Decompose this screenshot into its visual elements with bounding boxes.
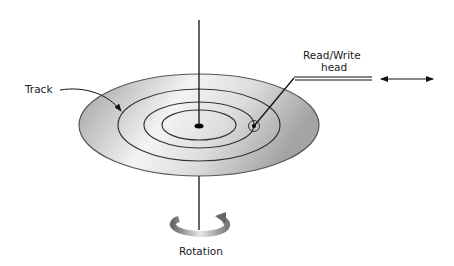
- rotation-label: Rotation: [179, 245, 223, 257]
- rotation-arrow-icon: [173, 212, 227, 234]
- head-label-line1: Read/Write: [303, 49, 361, 61]
- disk-diagram: Track Read/Write head Rotation: [0, 0, 454, 266]
- head-label-line2: head: [321, 61, 347, 73]
- track-label: Track: [24, 83, 53, 95]
